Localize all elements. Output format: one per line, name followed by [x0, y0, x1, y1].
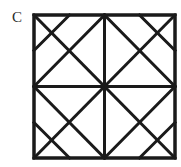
geometric-figure — [0, 0, 181, 167]
figure-lines — [34, 15, 175, 158]
